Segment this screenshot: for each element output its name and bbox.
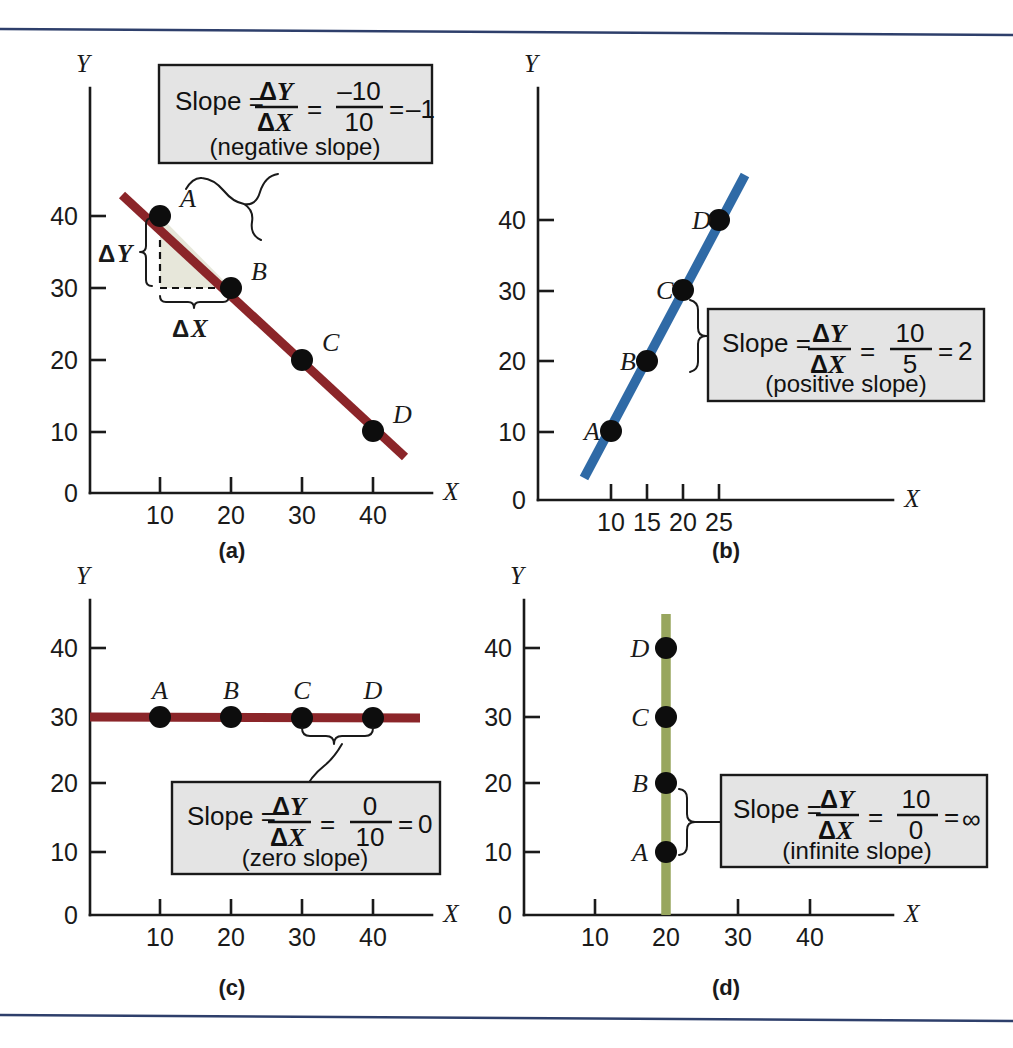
panel-d-point-label-D: D xyxy=(630,634,650,663)
panel-b-x-axis-title: X xyxy=(903,485,921,512)
panel-a-x-label-40: 40 xyxy=(359,501,387,529)
panel-d-point-label-C: C xyxy=(631,703,649,732)
panel-a-formula-den1-delta: Δ xyxy=(257,108,275,136)
panel-d-x-label-20: 20 xyxy=(652,923,680,951)
panel-b-y-label-10: 10 xyxy=(498,418,526,446)
panel-b-y-label-30: 30 xyxy=(498,277,526,305)
panel-a-point-label-C: C xyxy=(322,328,340,357)
panel-b-point-B xyxy=(636,350,658,372)
panel-c-point-C xyxy=(291,707,313,729)
panel-b-x-label-25: 25 xyxy=(705,508,733,536)
panel-a-x-label-30: 30 xyxy=(288,501,316,529)
panel-d-x-label-10: 10 xyxy=(581,923,609,951)
panel-d-origin-label: 0 xyxy=(498,901,512,929)
panel-a-y-label-40: 40 xyxy=(50,202,78,230)
panel-d-point-label-A: A xyxy=(630,838,648,867)
panel-c-formula-result: 0 xyxy=(418,809,432,839)
panel-d-point-D xyxy=(655,637,677,659)
panel-c-point-D xyxy=(362,707,384,729)
panel-c-x-label-20: 20 xyxy=(217,923,245,951)
panel-d-x-label-30: 30 xyxy=(724,923,752,951)
panel-a-delta-x-label-var: X xyxy=(190,315,209,342)
panel-d-y-label-40: 40 xyxy=(484,634,512,662)
panel-c-formula-note: (zero slope) xyxy=(242,844,369,871)
panel-c-x-label-30: 30 xyxy=(288,923,316,951)
panel-a-point-A xyxy=(149,205,171,227)
panel-c-origin-label: 0 xyxy=(64,901,78,929)
panel-a-delta-x-label: Δ xyxy=(172,315,189,342)
panel-b-formula-eq2: = xyxy=(938,336,953,366)
panel-a-point-B xyxy=(220,277,242,299)
panel-d-formula-eq2: = xyxy=(944,802,959,832)
slope-figure: Y X 40 30 20 10 0 10 20 30 40 Δ Y Δ xyxy=(0,0,1013,1048)
panel-c-y-label-40: 40 xyxy=(50,634,78,662)
panel-a-y-label-30: 30 xyxy=(50,274,78,302)
panel-d-y-label-30: 30 xyxy=(484,703,512,731)
panel-b-point-D xyxy=(708,209,730,231)
panel-c-caption: (c) xyxy=(219,975,246,1000)
panel-c-y-label-10: 10 xyxy=(50,838,78,866)
panel-a-caption: (a) xyxy=(219,538,246,563)
panel-b-formula-eq1: = xyxy=(860,336,875,366)
panel-b: Y X 40 30 20 10 0 10 15 20 25 A B C D xyxy=(498,50,984,563)
panel-a-formula-num2: –10 xyxy=(337,76,380,106)
panel-b-formula-result: 2 xyxy=(958,336,972,366)
panel-b-caption: (b) xyxy=(712,538,740,563)
panel-a-delta-x-brace xyxy=(160,296,229,308)
panel-d-point-A xyxy=(655,841,677,863)
panel-b-formula-num1-delta: Δ xyxy=(812,319,830,347)
panel-c-point-label-A: A xyxy=(150,676,168,705)
panel-d-formula-lead: Slope = xyxy=(733,794,822,824)
panel-c-y-axis-title: Y xyxy=(76,562,93,589)
panel-a-point-label-B: B xyxy=(251,257,267,286)
panel-b-point-label-D: D xyxy=(691,206,711,235)
panel-c-formula-lead: Slope = xyxy=(187,801,276,831)
panel-a: Y X 40 30 20 10 0 10 20 30 40 Δ Y Δ xyxy=(50,50,460,563)
panel-b-x-label-10: 10 xyxy=(597,508,625,536)
panel-d-y-axis-title: Y xyxy=(510,562,527,589)
panel-c-x-label-40: 40 xyxy=(359,923,387,951)
panel-a-x-label-20: 20 xyxy=(217,501,245,529)
panel-d-point-label-B: B xyxy=(632,769,648,798)
panel-a-origin-label: 0 xyxy=(64,479,78,507)
panel-d-y-label-20: 20 xyxy=(484,769,512,797)
panel-c: Y X 40 30 20 10 0 10 20 30 40 A B C D Sl… xyxy=(50,562,460,1000)
panel-c-formula-eq2: = xyxy=(398,809,413,839)
panel-a-formula-eq1: = xyxy=(307,94,322,124)
panel-d-formula-note: (infinite slope) xyxy=(782,837,931,864)
panel-a-formula-note: (negative slope) xyxy=(210,133,381,160)
panel-b-point-label-C: C xyxy=(656,276,674,305)
panel-d-point-C xyxy=(655,706,677,728)
panel-a-y-label-20: 20 xyxy=(50,346,78,374)
panel-b-formula-lead: Slope = xyxy=(722,328,811,358)
panel-a-delta-y-label: Δ xyxy=(98,240,115,267)
panel-c-point-A xyxy=(149,706,171,728)
panel-c-point-label-B: B xyxy=(223,676,239,705)
panel-c-formula-eq1: = xyxy=(320,809,335,839)
panel-c-x-label-10: 10 xyxy=(146,923,174,951)
panel-b-formula-num1-var: Y xyxy=(830,319,848,348)
panel-b-y-label-40: 40 xyxy=(498,206,526,234)
panel-a-x-axis-title: X xyxy=(442,478,460,505)
panel-d-point-B xyxy=(655,772,677,794)
panel-b-formula-note: (positive slope) xyxy=(765,370,926,397)
panel-d: Y X 40 30 20 10 0 10 20 30 40 A B C D Sl… xyxy=(484,562,987,1000)
panel-d-caption: (d) xyxy=(712,975,740,1000)
panel-c-point-label-D: D xyxy=(363,676,383,705)
panel-a-point-label-D: D xyxy=(392,400,412,429)
panel-d-formula-num1-delta: Δ xyxy=(820,785,838,813)
panel-d-x-axis-title: X xyxy=(903,900,921,927)
panel-c-point-label-C: C xyxy=(293,676,311,705)
panel-a-y-label-10: 10 xyxy=(50,418,78,446)
panel-a-point-D xyxy=(362,420,384,442)
panel-d-formula-eq1: = xyxy=(868,802,883,832)
panel-a-data-line xyxy=(122,195,405,457)
panel-c-x-axis-title: X xyxy=(442,900,460,927)
panel-d-y-label-10: 10 xyxy=(484,838,512,866)
bottom-rule xyxy=(0,1015,1013,1021)
panel-b-y-axis-title: Y xyxy=(524,50,541,77)
panel-b-point-label-B: B xyxy=(620,347,636,376)
panel-a-delta-y-brace xyxy=(140,218,152,286)
panel-a-point-C xyxy=(291,349,313,371)
panel-c-formula-num2: 0 xyxy=(363,791,377,821)
